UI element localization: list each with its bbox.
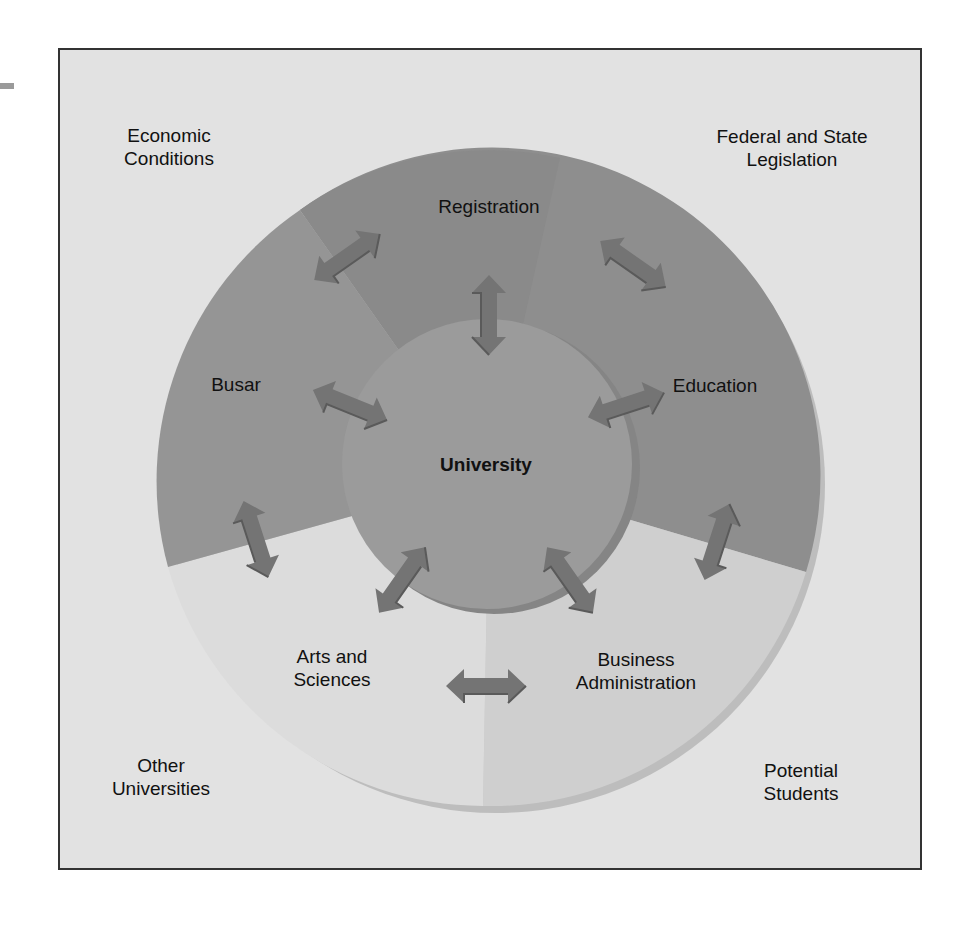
label-line: Potential [764, 759, 839, 782]
label-arts-and-sciences: Arts and Sciences [293, 645, 370, 691]
label-line: Administration [576, 671, 696, 694]
label-line: Students [764, 782, 839, 805]
label-line: Sciences [293, 668, 370, 691]
label-line: Business [576, 648, 696, 671]
label-economic-conditions: Economic Conditions [124, 124, 214, 170]
label-line: Federal and State [716, 125, 867, 148]
label-university: University [440, 453, 532, 476]
label-line: Economic [124, 124, 214, 147]
label-other-universities: Other Universities [112, 754, 210, 800]
label-education: Education [673, 374, 758, 397]
label-registration: Registration [438, 195, 539, 218]
label-line: Other [112, 754, 210, 777]
label-line: Universities [112, 777, 210, 800]
label-line: Arts and [293, 645, 370, 668]
label-business-administration: Business Administration [576, 648, 696, 694]
label-line: Conditions [124, 147, 214, 170]
label-line: Legislation [716, 148, 867, 171]
label-busar: Busar [211, 373, 261, 396]
label-federal-state-legislation: Federal and State Legislation [716, 125, 867, 171]
label-potential-students: Potential Students [764, 759, 839, 805]
